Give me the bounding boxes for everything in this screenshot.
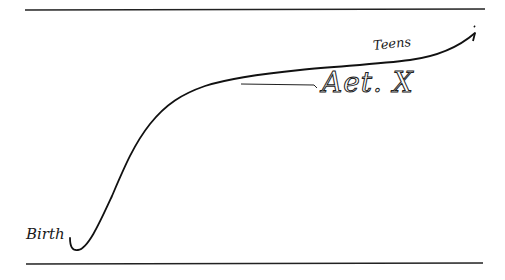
growth-curve [70,33,475,250]
bottom-rule [26,263,483,264]
birth-label: Birth [26,225,65,243]
diagram-canvas [0,0,505,280]
growth-curve-diagram: Birth Teens Aet. X [0,0,505,280]
aet-pointer-line [241,84,314,85]
aet-x-label: Aet. X [322,66,414,99]
top-rule [25,9,485,10]
aet-pointer-tick [314,85,317,88]
